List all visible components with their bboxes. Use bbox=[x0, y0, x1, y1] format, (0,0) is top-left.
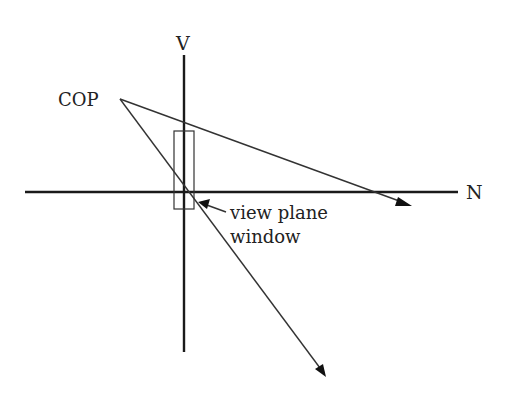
window-label-line2: window bbox=[230, 226, 301, 247]
cop-label: COP bbox=[58, 89, 99, 110]
n-axis-label: N bbox=[466, 181, 483, 203]
upper-ray-arrowhead-icon bbox=[395, 197, 412, 206]
lower-ray-arrowhead-icon bbox=[315, 364, 326, 377]
window-label-line1: view plane bbox=[229, 202, 328, 223]
upper-projector-ray bbox=[120, 99, 402, 202]
v-axis-label: V bbox=[175, 32, 190, 54]
perspective-projection-diagram: V N COP view plane window bbox=[0, 0, 507, 394]
